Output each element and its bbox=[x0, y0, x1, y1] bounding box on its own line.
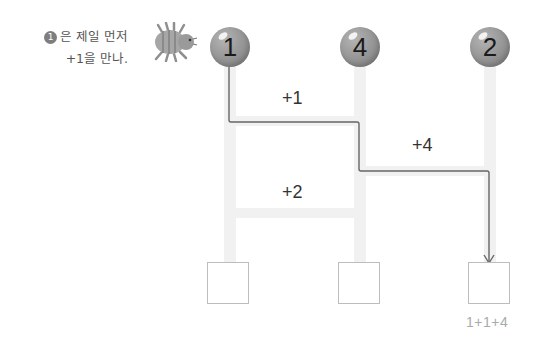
start-ball-1: 1 bbox=[210, 27, 250, 67]
answer-box-2[interactable] bbox=[338, 262, 380, 304]
answer-box-3[interactable] bbox=[468, 262, 510, 304]
answer-box-1[interactable] bbox=[207, 262, 249, 304]
path-arrow bbox=[0, 0, 539, 348]
start-ball-2: 4 bbox=[340, 27, 380, 67]
path-sum-hint: 1+1+4 bbox=[466, 314, 508, 330]
start-ball-3: 2 bbox=[470, 27, 510, 67]
